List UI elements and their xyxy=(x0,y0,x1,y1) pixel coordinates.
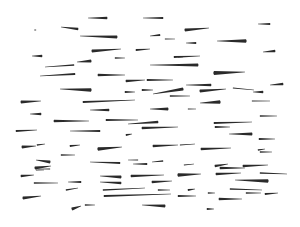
brush-stroke xyxy=(128,160,138,161)
brush-stroke xyxy=(36,170,44,171)
brush-stroke-canvas xyxy=(0,0,300,227)
